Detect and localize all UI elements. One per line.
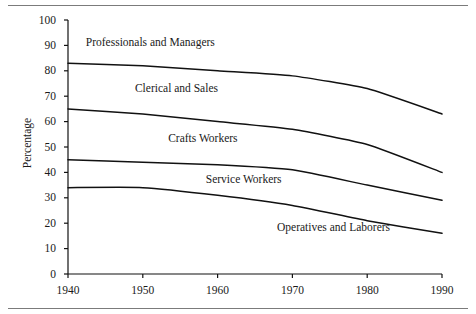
y-tick-label: 0 [26,268,56,280]
axes-lines [68,20,442,274]
y-tick-label: 90 [26,39,56,51]
y-tick-label: 60 [26,115,56,127]
y-tick-label: 30 [26,191,56,203]
band-label: Clerical and Sales [135,82,218,95]
chart-figure: Percentage 1009080706050403020100 194019… [0,0,476,314]
series-line [68,63,442,114]
band-label: Professionals and Managers [86,36,215,49]
band-label: Crafts Workers [168,132,237,145]
y-tick-label: 50 [26,141,56,153]
x-tick-label: 1970 [269,284,315,296]
y-tick-label: 40 [26,166,56,178]
x-tick-label: 1990 [419,284,465,296]
y-tick-label: 10 [26,242,56,254]
band-label: Operatives and Laborers [277,221,390,234]
y-tick-label: 20 [26,217,56,229]
band-label: Service Workers [206,173,282,186]
x-tick-label: 1980 [344,284,390,296]
line-chart-plot [0,0,476,314]
x-tick-label: 1950 [120,284,166,296]
y-tick-label: 70 [26,90,56,102]
x-tick-label: 1960 [195,284,241,296]
series-line [68,109,442,172]
x-tick-label: 1940 [45,284,91,296]
y-tick-label: 80 [26,64,56,76]
series-curves [68,63,442,233]
y-tick-label: 100 [26,14,56,26]
